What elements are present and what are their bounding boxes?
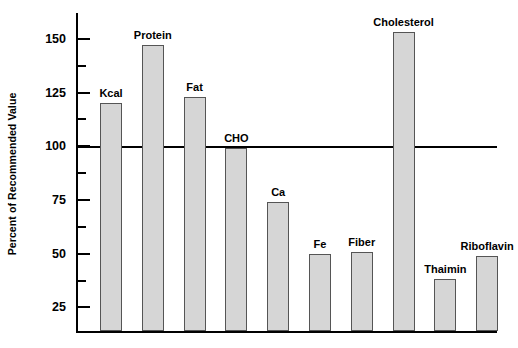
reference-line-100-percent [76, 146, 497, 148]
y-axis-tick-label: 50 [26, 248, 66, 261]
x-axis-line [76, 331, 497, 333]
y-axis-tick-major [77, 38, 90, 40]
y-axis-tick-major [77, 199, 90, 201]
y-axis-tick-minor [77, 226, 86, 228]
y-axis-tick-minor [77, 280, 86, 282]
y-axis-tick-label: 100 [26, 140, 66, 153]
bar-label-cho: CHO [186, 133, 286, 144]
bar-fat [184, 97, 206, 331]
bar-cho [225, 148, 247, 331]
bar-label-ca: Ca [228, 187, 328, 198]
y-axis-tick-major [77, 145, 90, 147]
y-axis-tick-label: 150 [26, 33, 66, 46]
y-axis-tick-minor [77, 172, 86, 174]
y-axis-title: Percent of Recommended Value [0, 0, 24, 348]
y-axis-tick-label: 25 [26, 301, 66, 314]
y-axis-tick-label: 75 [26, 194, 66, 207]
bar-riboflavin [476, 256, 498, 331]
bar-fe [309, 254, 331, 331]
bar-cholesterol [393, 32, 415, 331]
y-axis-tick-major [77, 306, 90, 308]
bar-label-cholesterol: Cholesterol [354, 17, 454, 28]
y-axis-tick-label: 125 [26, 87, 66, 100]
y-axis-tick-major [77, 253, 90, 255]
y-axis-tick-minor [77, 118, 86, 120]
bar-thaimin [434, 279, 456, 331]
bar-fiber [351, 252, 373, 332]
bar-ca [267, 202, 289, 331]
bar-label-fat: Fat [145, 82, 245, 93]
bar-kcal [100, 103, 122, 331]
bar-label-riboflavin: Riboflavin [437, 241, 518, 252]
y-axis-tick-minor [77, 65, 86, 67]
bar-label-protein: Protein [103, 30, 203, 41]
